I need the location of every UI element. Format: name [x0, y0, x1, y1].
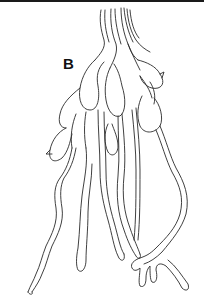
filament-illustration	[0, 0, 204, 301]
